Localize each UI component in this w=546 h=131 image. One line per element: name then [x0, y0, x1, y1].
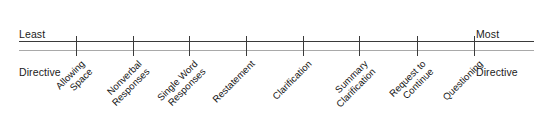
tick-clarification: [303, 36, 304, 56]
continuum-axis: AllowingSpaceNonverbalResponsesSingle Wo…: [0, 0, 546, 131]
directiveness-continuum-figure: Least Directive Most Directive AllowingS…: [0, 0, 546, 131]
tick-questioning: [474, 36, 475, 56]
tick-allowing-space: [76, 36, 77, 56]
tick-restatement: [246, 36, 247, 56]
tick-single-word-responses: [189, 36, 190, 56]
tick-request-to-continue: [417, 36, 418, 56]
axis-line-shadow: [19, 50, 534, 51]
axis-line-primary: [19, 41, 534, 42]
tick-summary-clarification: [359, 36, 360, 56]
tick-nonverbal-responses: [133, 36, 134, 56]
